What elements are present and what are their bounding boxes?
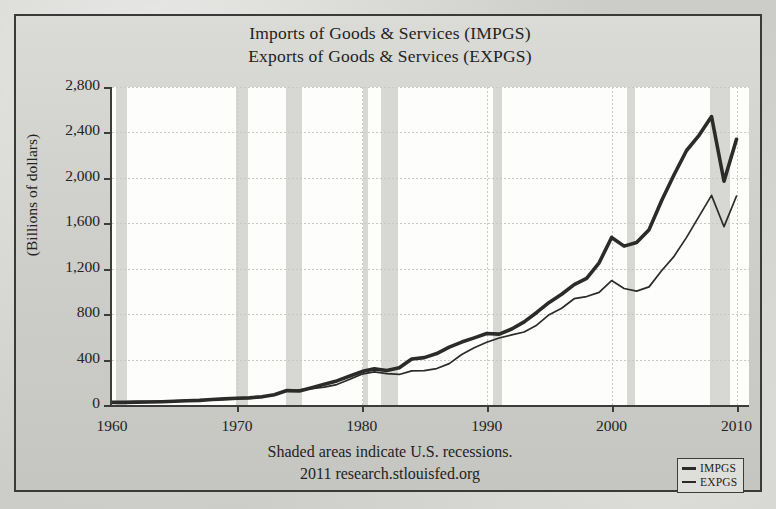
x-axis-tick-label: 1980 [327,417,397,435]
y-axis-tick-label: 2,400 [24,121,100,139]
y-axis-tick [104,314,112,316]
plot-area: 04008001,2001,6002,0002,4002,800 1960197… [110,87,749,407]
chart-title-line-1: Imports of Goods & Services (IMPGS) [16,22,764,45]
legend-item-impgs: IMPGS [682,461,737,475]
x-axis-tick [737,405,739,412]
chart-frame: Imports of Goods & Services (IMPGS) Expo… [14,14,762,492]
y-axis-tick [104,132,112,134]
legend-label: EXPGS [700,476,737,488]
footer-source: 2011 research.stlouisfed.org [16,463,764,484]
y-axis-tick [104,405,112,407]
y-axis-tick [104,87,112,89]
y-axis-tick [104,360,112,362]
y-axis-tick [104,223,112,225]
y-axis-tick [104,178,112,180]
x-axis-tick-label: 1970 [202,417,272,435]
x-axis-tick [362,405,364,412]
data-curves [112,87,749,405]
x-axis-tick-label: 2010 [702,417,772,435]
legend: IMPGSEXPGS [677,458,744,493]
scanned-page: Imports of Goods & Services (IMPGS) Expo… [0,0,776,509]
legend-item-expgs: EXPGS [682,475,737,489]
x-axis-tick-label: 1960 [77,417,147,435]
x-axis-tick [612,405,614,412]
x-axis-tick [237,405,239,412]
series-line-expgs [112,195,737,402]
y-axis-tick-label: 400 [24,349,100,367]
x-axis-tick-label: 1990 [452,417,522,435]
plot-inner [112,87,749,405]
y-axis-tick [104,269,112,271]
legend-swatch-icon [682,467,696,470]
y-axis-tick-label: 1,200 [24,258,100,276]
chart-title-line-2: Exports of Goods & Services (EXPGS) [16,45,764,68]
x-axis-tick-label: 2000 [577,417,647,435]
chart-title-block: Imports of Goods & Services (IMPGS) Expo… [16,22,764,68]
y-axis-tick-label: 1,600 [24,212,100,230]
series-line-impgs [112,117,737,403]
x-axis-tick [487,405,489,412]
y-axis-tick-label: 0 [24,394,100,412]
y-axis-tick-label: 2,000 [24,167,100,185]
footer-recession-note: Shaded areas indicate U.S. recessions. [16,441,764,462]
y-axis-tick-label: 800 [24,303,100,321]
y-axis-tick-label: 2,800 [24,76,100,94]
legend-label: IMPGS [700,462,736,474]
legend-swatch-icon [682,481,696,482]
